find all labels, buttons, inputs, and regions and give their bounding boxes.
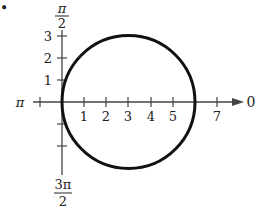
angle-label-pi: π	[15, 95, 25, 110]
svg-text:2: 2	[58, 16, 66, 31]
svg-text:3: 3	[44, 29, 52, 44]
svg-text:2: 2	[44, 51, 52, 66]
svg-text:3: 3	[124, 109, 132, 124]
svg-text:2: 2	[102, 109, 110, 124]
angle-label-3pi-over-2: 3π 2	[54, 177, 72, 209]
svg-text:2: 2	[59, 194, 67, 209]
svg-text:7: 7	[213, 109, 221, 124]
x-tick-labels: 1 2 3 4 5 7	[80, 109, 221, 124]
item-bullet: •	[0, 0, 8, 16]
svg-text:4: 4	[147, 109, 155, 124]
y-tick-labels: 3 2 1	[44, 29, 52, 88]
angle-label-pi-over-2: π 2	[55, 1, 69, 31]
svg-text:5: 5	[169, 109, 177, 124]
svg-text:3π: 3π	[55, 177, 72, 192]
svg-text:1: 1	[44, 73, 52, 88]
angle-label-zero: 0	[247, 94, 256, 110]
polar-chart: • 1 2 3 4 5 7 3 2 1 π 0	[0, 0, 258, 220]
svg-text:π: π	[57, 1, 67, 16]
axis-arrow-icon	[232, 98, 244, 106]
svg-text:1: 1	[80, 109, 88, 124]
